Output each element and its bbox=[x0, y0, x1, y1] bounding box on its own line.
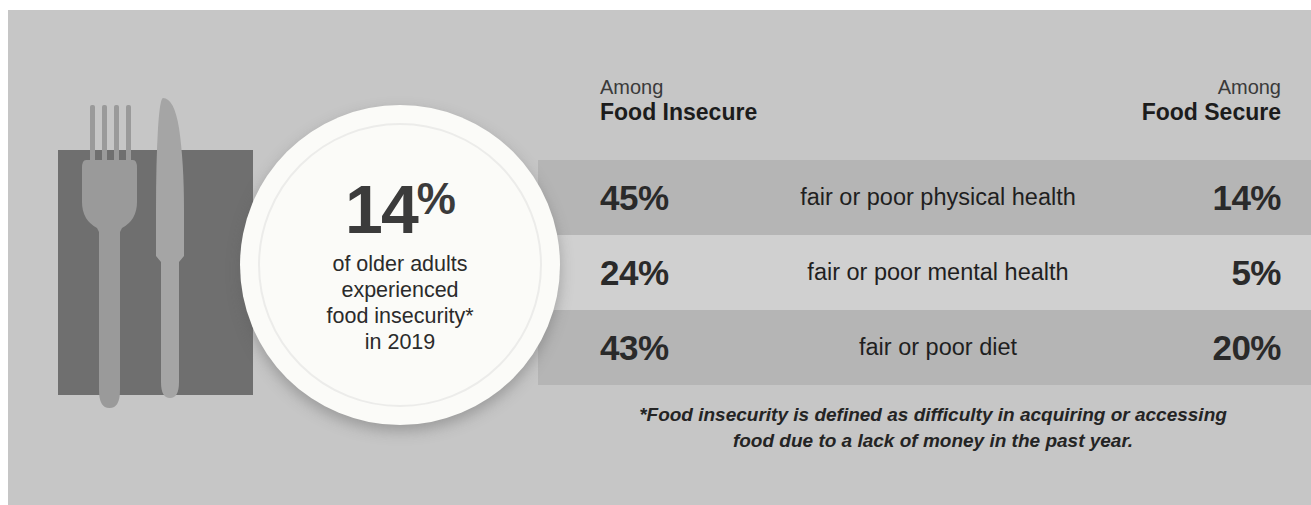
headline-caption: of older adults experienced food insecur… bbox=[327, 251, 474, 356]
column-header-category-left: Food Insecure bbox=[600, 99, 757, 127]
row-value-secure: 20% bbox=[1146, 328, 1311, 368]
row-value-insecure: 24% bbox=[538, 253, 730, 293]
infographic-canvas: 14% of older adults experienced food ins… bbox=[8, 10, 1311, 505]
footnote: *Food insecurity is defined as difficult… bbox=[568, 402, 1298, 453]
column-header-among-right: Among bbox=[1142, 76, 1281, 99]
row-value-secure: 5% bbox=[1146, 253, 1311, 293]
footnote-line-1: *Food insecurity is defined as difficult… bbox=[568, 402, 1298, 428]
footnote-line-2: food due to a lack of money in the past … bbox=[568, 428, 1298, 454]
row-label: fair or poor physical health bbox=[730, 184, 1146, 211]
row-value-insecure: 45% bbox=[538, 178, 730, 218]
row-value-secure: 14% bbox=[1146, 178, 1311, 218]
caption-line-4: in 2019 bbox=[327, 329, 474, 355]
table-row: 24% fair or poor mental health 5% bbox=[538, 235, 1311, 310]
column-header-among-left: Among bbox=[600, 76, 757, 99]
headline-percent-symbol: % bbox=[417, 174, 455, 223]
table-row: 45% fair or poor physical health 14% bbox=[538, 160, 1311, 235]
headline-stat-value: 14 bbox=[345, 171, 417, 247]
caption-line-2: experienced bbox=[327, 277, 474, 303]
row-label: fair or poor diet bbox=[730, 334, 1146, 361]
row-value-insecure: 43% bbox=[538, 328, 730, 368]
row-label: fair or poor mental health bbox=[730, 259, 1146, 286]
column-header-food-insecure: Among Food Insecure bbox=[600, 76, 757, 127]
plate-callout: 14% of older adults experienced food ins… bbox=[240, 105, 560, 425]
caption-line-3: food insecurity* bbox=[327, 303, 474, 329]
caption-line-1: of older adults bbox=[327, 251, 474, 277]
table-row: 43% fair or poor diet 20% bbox=[538, 310, 1311, 385]
column-header-food-secure: Among Food Secure bbox=[1142, 76, 1281, 127]
headline-stat: 14% bbox=[345, 175, 455, 243]
column-header-category-right: Food Secure bbox=[1142, 99, 1281, 127]
